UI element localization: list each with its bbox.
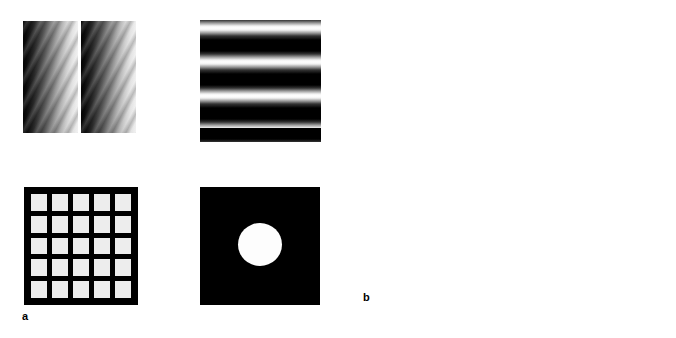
lattice-cell	[115, 238, 131, 255]
lattice-cell	[31, 281, 47, 298]
panel-a-label: a	[22, 311, 28, 322]
lattice-cell	[73, 259, 89, 276]
figure-root: a	[0, 0, 676, 338]
lattice-cell	[52, 216, 68, 233]
lattice-cell	[94, 281, 110, 298]
lattice-cell	[31, 238, 47, 255]
lattice-cell	[115, 259, 131, 276]
lattice-cell	[52, 281, 68, 298]
lattice-cell	[52, 259, 68, 276]
panel-a: a	[0, 0, 340, 338]
horizontal-grating-tile	[200, 20, 321, 142]
white-disc-tile	[200, 187, 320, 305]
panel-b-label: b	[363, 292, 370, 303]
lattice-cell	[73, 216, 89, 233]
lattice-cell	[115, 194, 131, 211]
lattice-cell	[94, 194, 110, 211]
lattice-cell	[94, 216, 110, 233]
lattice-cell	[31, 194, 47, 211]
lattice-cell	[73, 281, 89, 298]
lattice-cell	[31, 259, 47, 276]
lattice-cell	[73, 238, 89, 255]
white-disc-shape	[238, 223, 282, 266]
square-lattice-grid	[24, 187, 138, 305]
lattice-cell	[115, 281, 131, 298]
lattice-cell	[73, 194, 89, 211]
lattice-cell	[52, 194, 68, 211]
oblique-grating-ramp-right-tile	[81, 21, 136, 133]
oblique-grating-ramp-left-tile	[23, 21, 78, 133]
panel-b: b	[340, 0, 676, 338]
lattice-cell	[94, 259, 110, 276]
lattice-cell	[115, 216, 131, 233]
lattice-cell	[52, 238, 68, 255]
square-lattice-tile	[24, 187, 138, 305]
lattice-cell	[31, 216, 47, 233]
lattice-cell	[94, 238, 110, 255]
